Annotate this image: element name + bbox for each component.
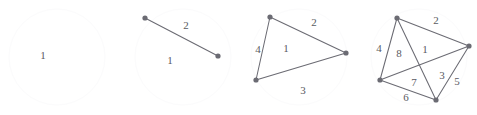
graph-vertex-v1 <box>142 15 147 20</box>
figure-1: 1 <box>9 9 105 105</box>
graph-vertex-v1 <box>267 14 272 19</box>
figure-3: 4231 <box>251 9 349 105</box>
edge-label-3: 3 <box>300 84 306 96</box>
edge-label-2: 2 <box>433 14 439 26</box>
graph-edge-2 <box>270 17 346 53</box>
graph-edge-3 <box>256 53 346 80</box>
graph-vertex-v3 <box>343 50 348 55</box>
edge-label-5: 5 <box>454 75 460 87</box>
edge-label-4: 4 <box>376 42 382 54</box>
face-label-1: 1 <box>40 49 46 61</box>
edge-label-6: 6 <box>403 91 409 103</box>
planar-graph-diagram: 121423124817356 <box>0 0 477 115</box>
edge-label-2: 2 <box>183 19 189 31</box>
outer-boundary-circle <box>371 9 467 105</box>
graph-vertex-v2 <box>215 53 220 58</box>
graph-vertex-v1 <box>394 15 399 20</box>
figure-2: 21 <box>135 9 231 105</box>
face-label-1: 1 <box>422 43 428 55</box>
graph-vertex-v3 <box>466 43 471 48</box>
graph-edge-2 <box>145 18 218 56</box>
figure-sequence-canvas: 121423124817356 <box>0 0 477 115</box>
figure-4: 24817356 <box>371 9 472 105</box>
face-label-1: 1 <box>283 42 289 54</box>
outer-boundary-circle <box>9 9 105 105</box>
face-label-7: 7 <box>411 76 417 88</box>
graph-vertex-v4 <box>433 97 438 102</box>
graph-vertex-v2 <box>377 77 382 82</box>
edge-label-4: 4 <box>255 43 261 55</box>
face-label-3: 3 <box>439 69 445 81</box>
diagram-root: 121423124817356 <box>9 9 472 105</box>
graph-edge-4 <box>380 18 397 80</box>
edge-label-2: 2 <box>311 16 317 28</box>
face-label-1: 1 <box>167 54 173 66</box>
graph-vertex-v2 <box>253 77 258 82</box>
face-label-8: 8 <box>396 47 402 59</box>
